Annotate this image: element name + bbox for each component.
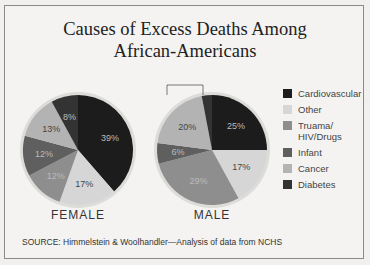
- title-line-2: African-Americans: [0, 40, 370, 62]
- legend-label: Other: [298, 104, 322, 115]
- legend-item: Truama/ HIV/Drugs: [283, 120, 361, 142]
- legend-swatch: [283, 121, 292, 130]
- male-3pct-callout: [165, 83, 215, 103]
- legend-label: Cancer: [298, 163, 329, 174]
- slice-percent-label: 12%: [35, 149, 53, 159]
- slice-percent-label: 17%: [75, 179, 93, 189]
- male-pie-chart: 25%17%29%6%20%3%: [152, 90, 272, 210]
- legend-item: Diabetes: [283, 179, 361, 190]
- slice-percent-label: 25%: [227, 121, 245, 131]
- title-line-1: Causes of Excess Deaths Among: [0, 18, 370, 40]
- legend-label: Truama/ HIV/Drugs: [298, 120, 342, 142]
- slice-percent-label: 20%: [178, 122, 196, 132]
- slice-percent-label: 13%: [42, 124, 60, 134]
- legend-item: Infant: [283, 147, 361, 158]
- slice-percent-label: 29%: [189, 176, 207, 186]
- legend-swatch: [283, 89, 292, 98]
- legend-item: Cancer: [283, 163, 361, 174]
- female-pie-chart: 39%17%12%12%13%8%: [18, 90, 138, 210]
- female-pie-label: FEMALE: [38, 208, 118, 222]
- legend-label: Cardiovascular: [298, 88, 361, 99]
- legend-label: Diabetes: [298, 179, 336, 190]
- male-pie-label: MALE: [172, 208, 252, 222]
- legend: CardiovascularOtherTruama/ HIV/DrugsInfa…: [283, 88, 361, 195]
- legend-item: Cardiovascular: [283, 88, 361, 99]
- slice-percent-label: 12%: [47, 171, 65, 181]
- legend-swatch: [283, 105, 292, 114]
- slice-percent-label: 6%: [171, 147, 184, 157]
- source-note: SOURCE: Himmelstein & Woolhandler—Analys…: [22, 237, 282, 247]
- legend-swatch: [283, 164, 292, 173]
- legend-swatch: [283, 180, 292, 189]
- slice-percent-label: 8%: [63, 112, 76, 122]
- legend-label: Infant: [298, 147, 322, 158]
- legend-item: Other: [283, 104, 361, 115]
- legend-swatch: [283, 148, 292, 157]
- slice-percent-label: 17%: [232, 162, 250, 172]
- slice-percent-label: 39%: [101, 133, 119, 143]
- chart-title: Causes of Excess Deaths Among African-Am…: [0, 18, 370, 62]
